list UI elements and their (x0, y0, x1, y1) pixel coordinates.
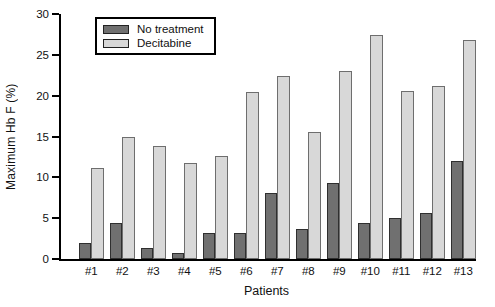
bar-no-treatment (327, 183, 340, 259)
x-tick-label: #12 (423, 265, 442, 277)
bar-no-treatment (358, 223, 371, 259)
legend-item: No treatment (103, 23, 203, 35)
bar-decitabine (246, 92, 259, 259)
bar-no-treatment (234, 233, 247, 259)
y-tick-label: 10 (25, 171, 49, 183)
bar-decitabine (432, 86, 445, 259)
y-tick (52, 176, 59, 178)
legend: No treatmentDecitabine (95, 17, 216, 55)
y-tick (52, 258, 59, 260)
x-tick-label: #9 (333, 265, 346, 277)
bar-no-treatment (141, 248, 154, 259)
x-tick-label: #8 (302, 265, 315, 277)
bar-no-treatment (79, 243, 92, 259)
y-tick-label: 15 (25, 131, 49, 143)
bar-no-treatment (203, 233, 216, 259)
bar-decitabine (91, 168, 104, 259)
legend-item: Decitabine (103, 37, 203, 49)
x-tick-label: #3 (147, 265, 160, 277)
y-tick (52, 217, 59, 219)
bar-no-treatment (110, 223, 123, 259)
bar-decitabine (463, 40, 476, 259)
bar-decitabine (308, 132, 321, 259)
bar-decitabine (215, 156, 228, 259)
y-tick-label: 5 (25, 212, 49, 224)
legend-label: Decitabine (137, 37, 191, 49)
bar-decitabine (370, 35, 383, 259)
plot-area: No treatmentDecitabine 051015202530#1#2#… (59, 14, 476, 261)
bar-decitabine (339, 71, 352, 259)
x-tick-label: #7 (271, 265, 284, 277)
bar-decitabine (122, 137, 135, 260)
y-tick (52, 13, 59, 15)
x-tick-label: #11 (392, 265, 410, 277)
y-axis-title: Maximum Hb F (%) (4, 14, 18, 259)
bar-no-treatment (296, 229, 309, 259)
bar-decitabine (184, 163, 197, 259)
x-tick-label: #2 (116, 265, 129, 277)
y-tick-label: 20 (25, 90, 49, 102)
x-tick-label: #10 (361, 265, 380, 277)
legend-swatch (103, 39, 129, 48)
legend-swatch (103, 25, 129, 34)
bar-no-treatment (451, 161, 464, 259)
bar-no-treatment (420, 213, 433, 259)
legend-label: No treatment (137, 23, 203, 35)
y-tick-label: 30 (25, 8, 49, 20)
bar-decitabine (153, 146, 166, 259)
bar-no-treatment (265, 193, 278, 259)
bar-decitabine (277, 76, 290, 259)
x-tick-label: #4 (178, 265, 191, 277)
bar-decitabine (401, 91, 414, 259)
y-tick-label: 0 (25, 253, 49, 265)
x-tick-label: #5 (209, 265, 222, 277)
y-tick-label: 25 (25, 49, 49, 61)
bar-no-treatment (389, 218, 402, 259)
x-axis-title: Patients (59, 284, 474, 298)
x-tick-label: #13 (454, 265, 473, 277)
y-tick (52, 54, 59, 56)
bar-no-treatment (172, 253, 185, 259)
x-tick-label: #6 (240, 265, 253, 277)
x-tick-label: #1 (85, 265, 98, 277)
y-tick (52, 136, 59, 138)
figure: Maximum Hb F (%) No treatmentDecitabine … (0, 0, 495, 307)
y-tick (52, 95, 59, 97)
